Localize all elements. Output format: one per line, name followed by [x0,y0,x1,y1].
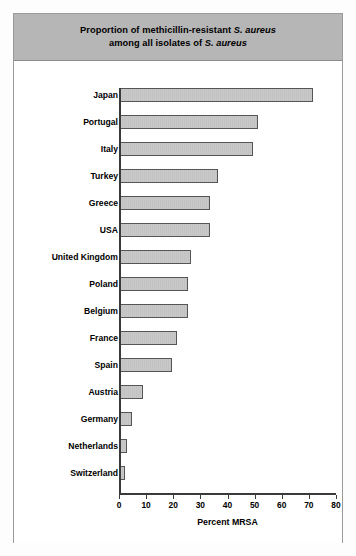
bar-row: Switzerland [14,466,342,493]
x-tick-label: 0 [107,500,131,510]
bar-track [120,88,336,102]
plot-area: JapanPortugalItalyTurkeyGreeceUSAUnited … [14,62,342,543]
bar [120,88,313,102]
category-label: Belgium [0,304,118,318]
chart-title-line1-pre: Proportion of methicillin-resistant [80,25,234,35]
bar-row: Belgium [14,304,342,331]
bar-track [120,466,336,480]
x-tick [146,495,147,499]
category-axis-line [119,88,121,494]
chart-title-line2-pre: among all isolates of [109,38,205,48]
category-label: Japan [0,88,118,102]
bar [120,439,127,453]
bar-row: USA [14,223,342,250]
category-label: Austria [0,385,118,399]
bar-track [120,196,336,210]
chart-title-line2-italic: S. aureus [205,38,247,48]
category-label: France [0,331,118,345]
category-label: Italy [0,142,118,156]
bar-chart: JapanPortugalItalyTurkeyGreeceUSAUnited … [14,62,342,543]
bar [120,304,188,318]
chart-title-line1-italic: S. aureus [234,25,276,35]
chart-title-band: Proportion of methicillin-resistant S. a… [14,14,342,61]
figure-card: Proportion of methicillin-resistant S. a… [13,13,343,543]
x-tick [228,495,229,499]
bar-track [120,142,336,156]
x-tick [119,495,120,499]
bar-track [120,304,336,318]
bar-row: Turkey [14,169,342,196]
bar-row: Austria [14,385,342,412]
bar-track [120,250,336,264]
figure-page: Proportion of methicillin-resistant S. a… [0,0,356,556]
bar-track [120,331,336,345]
bar [120,196,210,210]
bar-row: Poland [14,277,342,304]
bar [120,385,143,399]
x-tick-label: 80 [324,500,348,510]
category-label: Switzerland [0,466,118,480]
bar [120,142,253,156]
bar-track [120,115,336,129]
x-tick [309,495,310,499]
bar-row: Japan [14,88,342,115]
x-tick-label: 70 [297,500,321,510]
bar [120,250,191,264]
bar-track [120,439,336,453]
x-tick-label: 40 [216,500,240,510]
bar-row: France [14,331,342,358]
bar-row: Portugal [14,115,342,142]
bar-row: Greece [14,196,342,223]
category-label: Netherlands [0,439,118,453]
bar [120,358,172,372]
bar [120,412,132,426]
bar-rows: JapanPortugalItalyTurkeyGreeceUSAUnited … [14,88,342,493]
category-label: Germany [0,412,118,426]
x-tick-label: 50 [243,500,267,510]
x-tick-label: 20 [161,500,185,510]
x-tick [200,495,201,499]
bar-row: Netherlands [14,439,342,466]
x-axis-title: Percent MRSA [119,517,336,527]
category-label: USA [0,223,118,237]
bar [120,115,258,129]
category-label: Portugal [0,115,118,129]
bar-row: Italy [14,142,342,169]
bar-row: Spain [14,358,342,385]
chart-title: Proportion of methicillin-resistant S. a… [68,24,288,50]
category-label: Turkey [0,169,118,183]
category-label: Spain [0,358,118,372]
category-label: United Kingdom [0,250,118,264]
bar [120,331,177,345]
bar [120,169,218,183]
bar-track [120,169,336,183]
x-tick [336,495,337,499]
bar-track [120,277,336,291]
x-tick [282,495,283,499]
x-tick [173,495,174,499]
bar-row: United Kingdom [14,250,342,277]
bar-track [120,385,336,399]
bar-track [120,358,336,372]
bar-row: Germany [14,412,342,439]
x-tick [255,495,256,499]
category-label: Greece [0,196,118,210]
category-label: Poland [0,277,118,291]
x-tick-label: 60 [270,500,294,510]
x-tick-label: 30 [188,500,212,510]
x-tick-label: 10 [134,500,158,510]
bar-track [120,412,336,426]
bar [120,223,210,237]
bar [120,277,188,291]
bar-track [120,223,336,237]
